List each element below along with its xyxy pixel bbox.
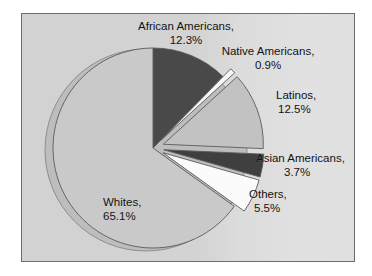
pie-chart-figure: PHOTO African Americans, 12.3% Native Am…: [0, 0, 372, 276]
label-line-2: 3.7%: [284, 166, 345, 180]
label-line-2: 12.5%: [278, 103, 316, 117]
label-line-1: Whites,: [103, 196, 141, 210]
label-line-2: 5.5%: [254, 202, 287, 216]
label-line-1: African Americans,: [128, 20, 244, 34]
slice-label-asian-americans: Asian Americans, 3.7%: [256, 152, 345, 179]
slice-label-african-americans: African Americans, 12.3%: [128, 20, 244, 47]
label-line-1: Others,: [249, 188, 287, 202]
label-line-1: Latinos,: [276, 89, 316, 103]
label-line-2: 65.1%: [103, 210, 141, 224]
slice-label-native-americans: Native Americans, 0.9%: [208, 45, 328, 72]
slice-label-latinos: Latinos, 12.5%: [276, 89, 316, 116]
label-line-1: Native Americans,: [208, 45, 328, 59]
slice-label-whites: Whites, 65.1%: [103, 196, 141, 223]
label-line-1: Asian Americans,: [256, 152, 345, 166]
label-line-2: 0.9%: [208, 59, 328, 73]
slice-label-others: Others, 5.5%: [249, 188, 287, 215]
